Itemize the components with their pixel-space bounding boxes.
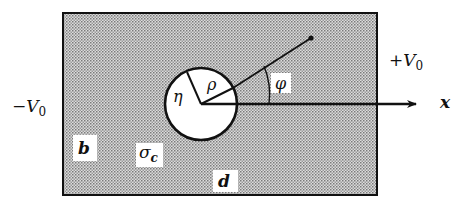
phi-label: φ bbox=[275, 74, 287, 93]
minus-v0-label: −V0 bbox=[12, 96, 46, 119]
eta-label: η bbox=[173, 87, 183, 106]
plus-v0-label: +V0 bbox=[389, 50, 423, 73]
d-label: d bbox=[218, 171, 230, 191]
position-point bbox=[308, 35, 313, 40]
rho-label: ρ bbox=[206, 75, 217, 94]
x-axis-label: x bbox=[439, 92, 451, 112]
conductive-sheet-diagram: −V0 +V0 x φ η ρ b σc d bbox=[0, 0, 470, 210]
b-label: b bbox=[78, 138, 90, 158]
